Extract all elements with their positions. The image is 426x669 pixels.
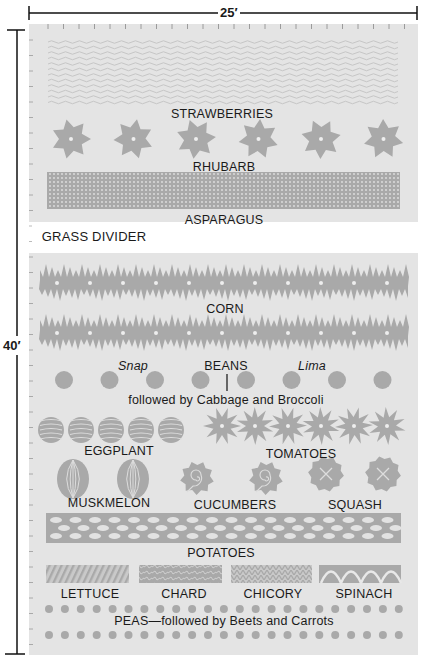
pea-plant — [331, 631, 339, 639]
potato — [304, 517, 316, 523]
potatoes-row — [46, 513, 402, 543]
corn-plant — [220, 331, 224, 335]
pea-plant — [45, 605, 53, 613]
corn-plant — [385, 331, 389, 335]
corn-plant — [121, 281, 125, 285]
pea-plant — [61, 631, 69, 639]
potato — [382, 533, 394, 539]
rhubarb-center — [69, 137, 73, 141]
potato — [284, 517, 296, 523]
pea-plant — [284, 631, 292, 639]
label-chicory: CHICORY — [244, 587, 303, 601]
bean-plant — [146, 371, 164, 389]
corn-plant — [187, 281, 191, 285]
bean-plant — [101, 371, 119, 389]
eggplant-row — [38, 417, 184, 443]
pea-plant — [236, 605, 244, 613]
pea-plant — [204, 605, 212, 613]
potato — [343, 517, 355, 523]
potato — [234, 525, 246, 531]
pea-plant — [331, 605, 339, 613]
pea-plant — [125, 605, 133, 613]
corn-plant — [253, 281, 257, 285]
potato — [109, 533, 121, 539]
potato — [312, 525, 324, 531]
corn-plant — [55, 331, 59, 335]
pea-plant — [315, 631, 323, 639]
bean-plant — [55, 371, 73, 389]
potato — [362, 517, 374, 523]
pea-plant — [45, 631, 53, 639]
label-grass-divider: GRASS DIVIDER — [42, 229, 146, 244]
pea-plant — [156, 631, 164, 639]
potato — [214, 525, 226, 531]
potato — [70, 517, 82, 523]
potato — [323, 517, 335, 523]
potato — [343, 533, 355, 539]
pea-plant — [379, 605, 387, 613]
potato — [206, 533, 218, 539]
peas-row-1 — [45, 605, 403, 613]
spinach-row — [319, 565, 401, 583]
label-spinach: SPINACH — [336, 587, 393, 601]
potato — [78, 525, 90, 531]
potato — [117, 525, 129, 531]
tomato-center — [319, 424, 323, 428]
label-chard: CHARD — [161, 587, 206, 601]
peas-row-2 — [45, 631, 403, 639]
length-dimension-label: 40′ — [3, 336, 21, 355]
potato — [245, 533, 257, 539]
label-strawberries: STRAWBERRIES — [171, 107, 273, 121]
label-cucumbers: CUCUMBERS — [194, 498, 276, 512]
pea-plant — [140, 631, 148, 639]
corn-plant — [319, 331, 323, 335]
potato — [351, 525, 363, 531]
corn-plant — [286, 331, 290, 335]
label-tomatoes: TOMATOES — [266, 447, 336, 461]
pea-plant — [109, 605, 117, 613]
label-snap-beans: Snap — [118, 359, 148, 373]
asparagus-row — [47, 172, 400, 209]
potato — [206, 517, 218, 523]
potato — [323, 533, 335, 539]
label-asparagus: ASPARAGUS — [185, 213, 264, 227]
potato — [187, 517, 199, 523]
pea-plant — [347, 605, 355, 613]
pea-plant — [299, 631, 307, 639]
label-beans-followup: followed by Cabbage and Broccoli — [128, 393, 323, 407]
potato — [273, 525, 285, 531]
chicory-row — [231, 565, 312, 583]
potato — [265, 517, 277, 523]
potato — [265, 533, 277, 539]
lettuce-row — [46, 565, 129, 583]
label-eggplant: EGGPLANT — [84, 444, 154, 458]
pea-plant — [379, 631, 387, 639]
pea-plant — [172, 605, 180, 613]
pea-plant — [140, 605, 148, 613]
corn-plant — [385, 281, 389, 285]
pea-plant — [220, 631, 228, 639]
corn-plant — [88, 331, 92, 335]
pea-plant — [109, 631, 117, 639]
potato — [167, 517, 179, 523]
potato — [148, 517, 160, 523]
label-lima-beans: Lima — [298, 359, 326, 373]
potato — [89, 533, 101, 539]
pea-plant — [395, 631, 403, 639]
potato — [331, 525, 343, 531]
potato — [390, 525, 402, 531]
pea-plant — [93, 631, 101, 639]
tomato-center — [352, 424, 356, 428]
potato — [292, 525, 304, 531]
pea-plant — [252, 605, 260, 613]
corn-plant — [88, 281, 92, 285]
potato — [50, 517, 62, 523]
pea-plant — [268, 631, 276, 639]
pea-plant — [188, 605, 196, 613]
pea-plant — [347, 631, 355, 639]
corn-plant — [55, 281, 59, 285]
rhubarb-center — [194, 137, 198, 141]
corn-plant — [187, 331, 191, 335]
potato — [136, 525, 148, 531]
tomato-center — [220, 424, 224, 428]
